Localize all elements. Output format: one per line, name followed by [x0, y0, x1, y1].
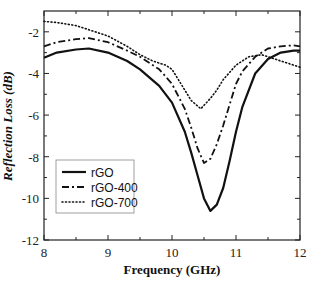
series-rgo-400 — [44, 38, 300, 163]
legend: rGOrGO-400rGO-700 — [56, 160, 138, 213]
y-tick-label: -12 — [22, 233, 39, 248]
x-tick-label: 9 — [105, 245, 112, 260]
x-axis-title: Frequency (GHz) — [124, 262, 221, 277]
legend-label: rGO-700 — [91, 196, 138, 210]
y-tick-label: -8 — [28, 150, 39, 165]
x-tick-label: 12 — [294, 245, 307, 260]
y-tick-label: -2 — [28, 25, 39, 40]
axis-ticks: 89101112-2-4-6-8-10-12 — [22, 11, 307, 260]
y-tick-label: -6 — [28, 108, 39, 123]
legend-label: rGO — [91, 166, 114, 180]
x-tick-label: 10 — [166, 245, 179, 260]
legend-label: rGO-400 — [91, 181, 138, 195]
y-tick-label: -4 — [28, 66, 39, 81]
y-axis-title: Reflection Loss (dB) — [0, 71, 15, 182]
x-tick-label: 8 — [41, 245, 48, 260]
x-tick-label: 11 — [230, 245, 243, 260]
y-tick-label: -10 — [22, 191, 39, 206]
reflection-loss-chart: 89101112-2-4-6-8-10-12 rGOrGO-400rGO-700… — [0, 0, 315, 283]
